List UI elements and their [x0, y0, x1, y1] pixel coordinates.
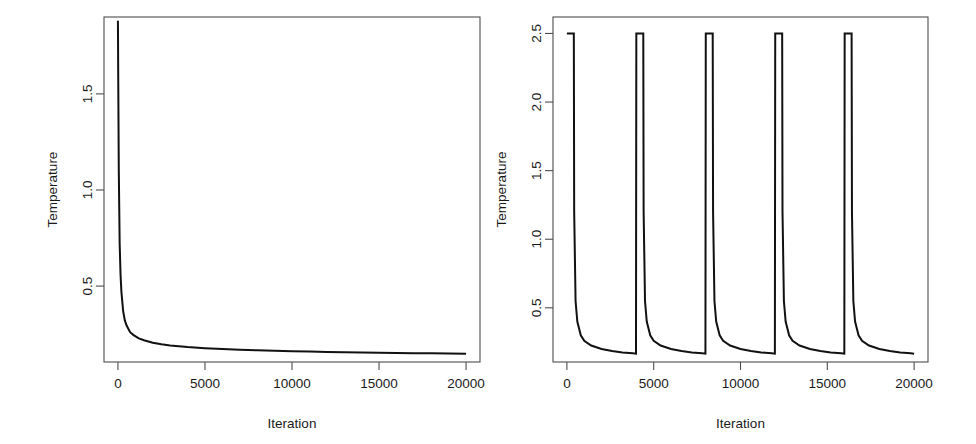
- y-axis: 0.51.01.5: [81, 84, 105, 295]
- data-line-left: [118, 21, 466, 354]
- y-tick-label: 0.5: [81, 277, 96, 296]
- y-axis: 0.51.01.52.02.5: [530, 24, 554, 317]
- x-tick-label: 15000: [809, 376, 847, 391]
- x-tick-label: 20000: [895, 376, 933, 391]
- x-axis: 05000100001500020000: [563, 362, 933, 391]
- y-tick-label: 1.0: [530, 230, 545, 249]
- temperature-schedule-figure: 050001000015000200000.51.01.5IterationTe…: [0, 0, 976, 444]
- y-tick-label: 1.0: [81, 181, 96, 200]
- right-plot-panel: 050001000015000200000.51.01.52.02.5Itera…: [484, 0, 976, 444]
- x-tick-label: 5000: [190, 376, 220, 391]
- y-tick-label: 0.5: [530, 298, 545, 317]
- x-tick-label: 0: [563, 376, 571, 391]
- right-plot-svg: 050001000015000200000.51.01.52.02.5Itera…: [484, 0, 976, 444]
- y-tick-label: 2.5: [530, 24, 545, 43]
- x-tick-label: 5000: [639, 376, 669, 391]
- data-line-right: [567, 33, 914, 353]
- left-plot-panel: 050001000015000200000.51.01.5IterationTe…: [0, 0, 492, 444]
- x-tick-label: 15000: [360, 376, 398, 391]
- y-axis-title: Temperature: [494, 152, 509, 228]
- left-plot-svg: 050001000015000200000.51.01.5IterationTe…: [0, 0, 492, 444]
- x-axis-title: Iteration: [716, 416, 765, 431]
- y-tick-label: 1.5: [530, 161, 545, 180]
- x-tick-label: 20000: [447, 376, 485, 391]
- x-tick-label: 0: [114, 376, 122, 391]
- y-tick-label: 2.0: [530, 93, 545, 112]
- plot-box: [104, 17, 480, 362]
- x-tick-label: 10000: [273, 376, 311, 391]
- y-tick-label: 1.5: [81, 84, 96, 103]
- x-axis: 05000100001500020000: [114, 362, 485, 391]
- x-tick-label: 10000: [722, 376, 760, 391]
- plot-box: [553, 17, 928, 362]
- x-axis-title: Iteration: [268, 416, 317, 431]
- y-axis-title: Temperature: [45, 152, 60, 228]
